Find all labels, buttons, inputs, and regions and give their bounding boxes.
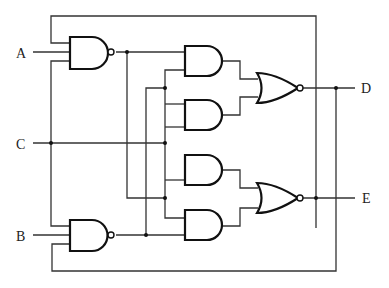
output-label-d: D [361,81,371,96]
input-label-c: C [16,137,25,152]
output-label-e: E [362,191,371,206]
and-gate-g5 [185,155,222,185]
and-gate-g3 [185,46,222,76]
and-gate-g6 [185,210,222,240]
nor-gate-g8 [257,183,303,213]
input-label-a: A [16,46,27,61]
input-label-b: B [16,229,25,244]
nand-gate-g1 [70,37,114,69]
nand-gate-g2 [70,220,114,251]
nor-gate-g7 [257,73,303,103]
and-gate-g4 [185,100,222,130]
logic-circuit-diagram: A C B D E [0,0,389,288]
